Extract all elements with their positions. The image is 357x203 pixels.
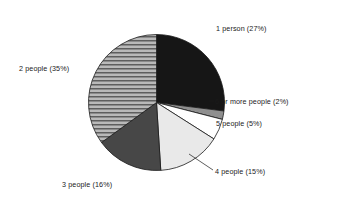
pie-label-five-people: 5 people (5%) (216, 120, 262, 127)
leader-line-four-people (189, 154, 213, 170)
pie-chart-figure: 1 person (27%) 6 or more people (2%) 5 p… (0, 0, 357, 203)
pie-label-six-or-more-people: 6 or more people (2%) (215, 98, 289, 105)
pie-slices-group (89, 35, 225, 171)
pie-label-two-people: 2 people (35%) (19, 65, 69, 72)
pie-chart-canvas (0, 0, 357, 203)
pie-label-three-people: 3 people (16%) (62, 181, 112, 188)
pie-label-one-person: 1 person (27%) (216, 25, 267, 32)
pie-label-four-people: 4 people (15%) (215, 168, 265, 175)
